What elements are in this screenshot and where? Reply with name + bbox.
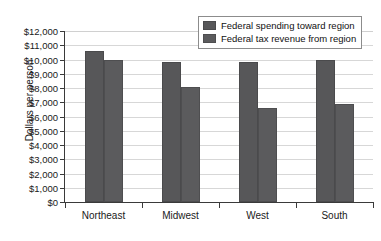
legend-label-revenue: Federal tax revenue from region xyxy=(221,33,356,44)
bar-group-west xyxy=(219,31,296,202)
bar xyxy=(104,60,123,202)
x-axis-separator-tick xyxy=(142,202,143,208)
x-axis-separator-tick xyxy=(65,202,66,208)
bar-group-midwest xyxy=(142,31,219,202)
bar xyxy=(162,62,181,202)
y-axis-tick-label: $11,000 xyxy=(24,40,58,51)
chart-legend: Federal spending toward region Federal t… xyxy=(198,16,362,49)
bar-series-container xyxy=(65,31,373,202)
y-axis-tick-label: $0 xyxy=(47,197,58,208)
bar-chart-figure: Dollars per person $0$1,000$2,000$3,000$… xyxy=(0,0,381,241)
bar xyxy=(258,108,277,202)
y-axis-tick-label: $2,000 xyxy=(29,168,58,179)
bar xyxy=(85,51,104,202)
legend-swatch-revenue xyxy=(203,34,216,43)
bar-group-south xyxy=(296,31,373,202)
y-axis-tick-label: $7,000 xyxy=(29,97,58,108)
bar xyxy=(181,87,200,202)
x-axis-label-midwest: Midwest xyxy=(162,210,199,221)
x-axis-separator-tick xyxy=(296,202,297,208)
legend-label-spending: Federal spending toward region xyxy=(221,20,355,31)
legend-swatch-spending xyxy=(203,21,216,30)
bar xyxy=(335,104,354,202)
y-axis-tick-label: $9,000 xyxy=(29,68,58,79)
y-axis-tick-label: $10,000 xyxy=(24,54,58,65)
legend-item-spending: Federal spending toward region xyxy=(203,20,356,31)
y-axis-tick-label: $4,000 xyxy=(29,140,58,151)
x-axis-label-south: South xyxy=(321,210,347,221)
legend-item-revenue: Federal tax revenue from region xyxy=(203,33,356,44)
y-axis-tick-label: $1,000 xyxy=(29,182,58,193)
bar xyxy=(239,62,258,202)
x-axis-label-west: West xyxy=(246,210,269,221)
bar-group-northeast xyxy=(65,31,142,202)
x-axis-label-northeast: Northeast xyxy=(82,210,125,221)
plot-area: $0$1,000$2,000$3,000$4,000$5,000$6,000$7… xyxy=(64,31,373,203)
y-axis-tick-label: $12,000 xyxy=(24,26,58,37)
y-axis-tick-label: $3,000 xyxy=(29,154,58,165)
y-axis-tick-label: $5,000 xyxy=(29,125,58,136)
y-axis-tick-label: $6,000 xyxy=(29,111,58,122)
x-axis-separator-tick xyxy=(373,202,374,208)
y-axis-tick-label: $8,000 xyxy=(29,83,58,94)
x-axis-separator-tick xyxy=(219,202,220,208)
bar xyxy=(316,60,335,203)
